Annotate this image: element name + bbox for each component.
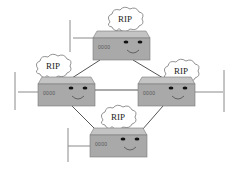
router-top-face [90,128,147,135]
router-left: RIP0000 [36,54,95,106]
eye-icon [69,86,74,89]
link-top-left [72,60,100,78]
network-diagram: RIP0000RIP0000RIP0000RIP0000 [0,0,233,169]
eye-icon [169,86,174,89]
router-top-face [138,77,195,84]
rip-label: RIP [46,61,60,71]
eye-icon [138,40,143,43]
eye-icon [121,137,126,140]
link-top-right [133,60,163,78]
link-right-bottom [142,106,163,130]
eye-icon [83,86,88,89]
rip-label: RIP [174,66,188,76]
routers: RIP0000RIP0000RIP0000RIP0000 [36,7,199,157]
rip-label: RIP [111,112,125,122]
port-indicators: 0000 [43,90,55,96]
eye-icon [135,137,140,140]
eye-icon [183,86,188,89]
cloud-bubble: RIP [108,7,143,31]
router-right: RIP0000 [138,59,199,106]
rip-label: RIP [118,14,132,24]
router-top: RIP0000 [93,7,150,60]
router-top-face [93,31,150,38]
cloud-bubble: RIP [36,54,71,78]
link-left-bottom [72,106,96,130]
router-top-face [38,77,95,84]
cloud-bubble: RIP [101,105,136,129]
eye-icon [124,40,129,43]
port-indicators: 0000 [95,141,107,147]
port-indicators: 0000 [143,90,155,96]
router-bottom: RIP0000 [90,105,147,157]
port-indicators: 0000 [98,44,110,50]
